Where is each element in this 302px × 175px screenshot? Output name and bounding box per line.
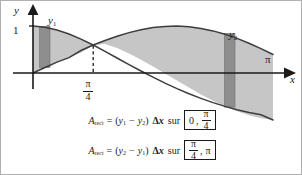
fraction-denominator: 4 bbox=[83, 92, 92, 103]
curve-label-y2: y2 bbox=[229, 29, 237, 40]
formula-1-equals: = bbox=[104, 115, 116, 126]
formula-2-term2: y1 bbox=[138, 145, 145, 156]
y-tick-label-one: 1 bbox=[13, 25, 19, 36]
formula-2-interval-fraction: π 4 bbox=[189, 139, 198, 162]
x-axis-label: x bbox=[290, 74, 295, 85]
formula-block: Arect = ( y1 − y2 ) Δx sur 0 , π 4 bbox=[1, 105, 302, 165]
formula-1-interval: 0 , π 4 bbox=[184, 110, 216, 130]
formula-2-term2-subscript: 1 bbox=[142, 150, 145, 156]
y-axis-arrowhead bbox=[28, 4, 39, 15]
formula-1-interval-right: π 4 bbox=[201, 109, 212, 132]
curve-label-y1-subscript: 1 bbox=[53, 20, 56, 27]
formula-1-term2: y2 bbox=[138, 115, 145, 126]
curve-label-y1: y1 bbox=[48, 15, 56, 26]
formula-1-delta-x: Δx bbox=[149, 115, 164, 126]
formula-1-interval-denominator: 4 bbox=[202, 121, 211, 132]
formula-2-interval: π 4 , π bbox=[184, 140, 216, 160]
representative-rectangle-right bbox=[225, 34, 236, 108]
x-tick-label-pi-over-4: π 4 bbox=[80, 79, 96, 102]
fraction-numerator: π bbox=[83, 79, 92, 90]
formula-2-interval-left: π 4 bbox=[188, 139, 199, 162]
representative-rectangle-left bbox=[40, 27, 51, 68]
formula-2-interval-denominator: 4 bbox=[189, 151, 198, 162]
formula-1-interval-numerator: π bbox=[202, 109, 211, 120]
formula-2-lhs-subscript: rect bbox=[95, 150, 104, 156]
curve-label-y2-subscript: 2 bbox=[234, 34, 237, 41]
formula-2-on-word: sur bbox=[164, 145, 180, 156]
formula-2-delta-x: Δx bbox=[148, 145, 163, 156]
y-axis-label: y bbox=[14, 5, 19, 16]
formula-1-term1-subscript: 1 bbox=[123, 120, 126, 126]
formula-1-lhs: Arect bbox=[88, 115, 103, 126]
formula-2-term1: y2 bbox=[119, 145, 126, 156]
formula-row-1: Arect = ( y1 − y2 ) Δx sur 0 , π 4 bbox=[1, 105, 302, 135]
formula-1-interval-fraction: π 4 bbox=[202, 109, 211, 132]
formula-1-lhs-subscript: rect bbox=[95, 120, 104, 126]
formula-1-term1: y1 bbox=[119, 115, 126, 126]
formula-row-2: Arect = ( y2 − y1 ) Δx sur π 4 , π bbox=[1, 135, 302, 165]
x-tick-label-pi: π bbox=[265, 54, 271, 65]
formula-1-on-word: sur bbox=[164, 115, 180, 126]
formula-2-interval-right: π bbox=[205, 145, 212, 156]
formula-1-interval-left: 0 bbox=[188, 115, 195, 126]
formula-1-lhs-symbol: A bbox=[88, 115, 94, 126]
formula-2-lhs: Arect bbox=[88, 145, 103, 156]
formula-1-minus: − bbox=[126, 115, 138, 126]
figure-container: y x 1 y1 y2 π π 4 Arect = ( y1 − y2 ) Δx… bbox=[0, 0, 302, 175]
formula-2-equals: = bbox=[104, 145, 116, 156]
formula-1-term2-subscript: 2 bbox=[142, 120, 145, 126]
fraction-pi-over-4: π 4 bbox=[83, 79, 92, 102]
formula-2-lhs-symbol: A bbox=[88, 145, 94, 156]
formula-2-minus: − bbox=[126, 145, 138, 156]
formula-2-term1-subscript: 2 bbox=[123, 150, 126, 156]
formula-2-interval-numerator: π bbox=[189, 139, 198, 150]
